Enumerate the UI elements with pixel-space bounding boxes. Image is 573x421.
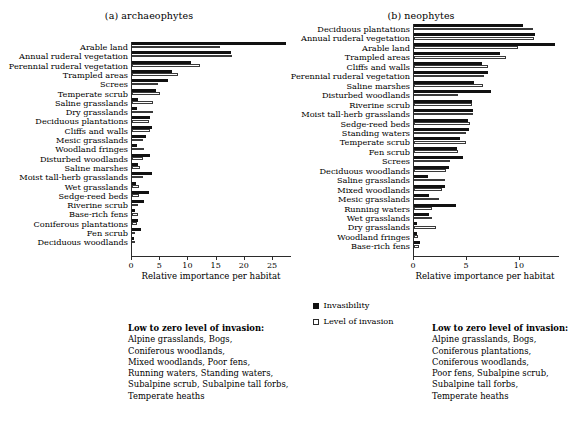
axis-tick-label: 0 <box>401 261 425 270</box>
axis-tick-label: 20 <box>232 261 256 270</box>
bar-level-of-invasion <box>132 204 138 207</box>
bar-level-of-invasion <box>414 113 473 116</box>
bar-pair <box>414 156 562 165</box>
bar-pair <box>132 237 294 246</box>
bar-invasibility <box>132 61 191 64</box>
axis-tick-label: 10 <box>175 261 199 270</box>
panel-a-axis-line <box>131 256 291 257</box>
panel-a-title: (a) archaeophytes <box>18 10 280 21</box>
bar-pair <box>414 175 562 184</box>
note-left: Low to zero level of invasion: Alpine gr… <box>128 323 288 402</box>
bar-level-of-invasion <box>414 198 439 201</box>
bar-pair <box>414 24 562 33</box>
bar-invasibility <box>414 128 469 131</box>
bar-invasibility <box>132 163 138 166</box>
bar-invasibility <box>414 213 429 216</box>
bar-invasibility <box>132 237 134 240</box>
bar-invasibility <box>414 109 473 112</box>
bar-pair <box>414 81 562 90</box>
bar-level-of-invasion <box>414 207 432 210</box>
panel-b-bars <box>413 24 562 256</box>
panel-archaeophytes: (a) archaeophytes Arable landAnnual rude… <box>0 0 300 300</box>
category-label: Screes <box>100 80 128 89</box>
bar-level-of-invasion <box>132 73 178 76</box>
bar-invasibility <box>414 62 482 65</box>
legend-item-invasibility: Invasibility <box>313 297 393 313</box>
panel-a-axis-title: Relative importance per habitat <box>131 271 291 281</box>
bar-pair <box>132 51 294 60</box>
legend: Invasibility Level of invasion <box>313 297 393 329</box>
axis-tick <box>187 257 188 260</box>
bar-pair <box>132 107 294 116</box>
bar-pair <box>132 182 294 191</box>
bar-pair <box>132 144 294 153</box>
bar-level-of-invasion <box>414 188 442 191</box>
bar-invasibility <box>414 185 445 188</box>
bar-level-of-invasion <box>132 64 200 67</box>
bar-level-of-invasion <box>414 245 419 248</box>
bar-invasibility <box>132 79 168 82</box>
bar-pair <box>132 228 294 237</box>
bar-level-of-invasion <box>132 120 149 123</box>
note-right-line-2: Coniferous plantations, <box>432 346 568 357</box>
bar-invasibility <box>414 166 449 169</box>
bar-level-of-invasion <box>414 28 533 31</box>
bar-pair <box>132 135 294 144</box>
bar-invasibility <box>414 81 474 84</box>
bar-invasibility <box>132 42 286 45</box>
bar-level-of-invasion <box>414 217 432 220</box>
bar-level-of-invasion <box>414 235 418 238</box>
bar-pair <box>132 42 294 51</box>
bar-level-of-invasion <box>414 179 445 182</box>
axis-tick <box>519 257 520 260</box>
panel-b-title: (b) neophytes <box>285 10 557 21</box>
category-label: Mesic grasslands <box>338 195 410 204</box>
bar-level-of-invasion <box>132 213 138 216</box>
axis-tick-label: 5 <box>454 261 478 270</box>
filled-square-icon <box>313 303 319 309</box>
bar-level-of-invasion <box>132 92 160 95</box>
bar-invasibility <box>414 43 555 46</box>
bar-pair <box>132 70 294 79</box>
category-label: Screes <box>382 157 410 166</box>
bar-level-of-invasion <box>132 111 153 114</box>
bar-level-of-invasion <box>414 169 446 172</box>
bar-level-of-invasion <box>414 84 483 87</box>
bar-pair <box>414 90 562 99</box>
note-right-heading: Low to zero level of invasion: <box>432 323 568 334</box>
bar-pair <box>414 222 562 231</box>
axis-tick <box>466 257 467 260</box>
bar-invasibility <box>414 175 428 178</box>
bar-level-of-invasion <box>414 132 466 135</box>
note-right-line-1: Alpine grasslands, Bogs, <box>432 334 568 345</box>
bar-level-of-invasion <box>132 185 139 188</box>
bar-invasibility <box>132 98 138 101</box>
bar-invasibility <box>414 24 523 27</box>
bar-level-of-invasion <box>132 176 143 179</box>
bar-level-of-invasion <box>132 101 153 104</box>
note-left-heading: Low to zero level of invasion: <box>128 323 288 334</box>
bar-pair <box>132 116 294 125</box>
bar-invasibility <box>132 191 149 194</box>
bar-invasibility <box>414 204 456 207</box>
bar-invasibility <box>132 144 137 147</box>
bar-pair <box>414 147 562 156</box>
bar-invasibility <box>414 241 420 244</box>
category-label: Moist tall-herb grasslands <box>301 110 410 119</box>
note-left-line-5: Subalpine scrub, Subalpine tall forbs, <box>128 379 288 390</box>
bar-level-of-invasion <box>132 194 139 197</box>
bar-pair <box>414 185 562 194</box>
legend-item-level-of-invasion: Level of invasion <box>313 313 393 329</box>
bar-pair <box>132 154 294 163</box>
bar-level-of-invasion <box>132 241 135 244</box>
bar-pair <box>414 52 562 61</box>
category-label: Trampled areas <box>345 53 410 62</box>
bar-pair <box>132 191 294 200</box>
note-right-line-3: Coniferous woodlands, <box>432 357 568 368</box>
bar-level-of-invasion <box>132 83 158 86</box>
bar-pair <box>414 62 562 71</box>
bar-pair <box>414 109 562 118</box>
axis-tick <box>272 257 273 260</box>
axis-tick-label: 15 <box>204 261 228 270</box>
bar-pair <box>414 43 562 52</box>
